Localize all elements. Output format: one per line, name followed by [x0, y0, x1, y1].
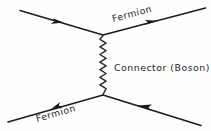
bottom-right-fermion-line — [103, 95, 201, 126]
feynman-diagram-svg: Fermion Connector (Boson) Fermion — [0, 0, 211, 131]
top-right-arrowhead-icon — [144, 20, 158, 25]
feynman-diagram-canvas: Fermion Connector (Boson) Fermion — [0, 0, 211, 131]
top-left-fermion-line — [20, 11, 103, 36]
boson-propagator-wave — [100, 36, 106, 95]
connector-boson-label: Connector (Boson) — [114, 62, 210, 73]
bottom-right-arrowhead-icon — [138, 105, 153, 111]
